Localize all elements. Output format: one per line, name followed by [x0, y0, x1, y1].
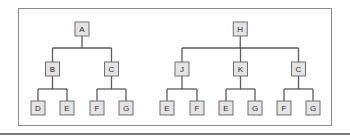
nodes-layer: DEBFGCAEFJEGKFGCH	[31, 22, 320, 115]
node-label: F	[282, 104, 287, 113]
node-label: G	[123, 104, 129, 113]
tree-node: A	[75, 22, 89, 36]
tree-node: G	[119, 101, 133, 115]
node-label: G	[310, 104, 316, 113]
node-label: E	[164, 104, 169, 113]
node-label: C	[296, 65, 302, 74]
node-label: F	[195, 104, 200, 113]
tree-diagram: DEBFGCAEFJEGKFGCH	[0, 0, 350, 136]
node-label: C	[109, 65, 115, 74]
node-label: F	[95, 104, 100, 113]
node-label: J	[180, 65, 184, 74]
node-label: E	[64, 104, 69, 113]
tree-node: H	[233, 22, 247, 36]
tree-node: E	[60, 101, 74, 115]
tree-node: K	[234, 62, 248, 76]
tree-node: E	[160, 101, 174, 115]
node-label: H	[237, 25, 243, 34]
tree-node: G	[306, 101, 320, 115]
tree-node: C	[105, 62, 119, 76]
node-label: G	[252, 104, 258, 113]
tree-node: J	[175, 62, 189, 76]
tree-node: E	[219, 101, 233, 115]
tree-node: F	[190, 101, 204, 115]
tree-node: C	[292, 62, 306, 76]
bottom-divider	[0, 133, 350, 135]
tree-node: B	[46, 62, 60, 76]
node-label: E	[223, 104, 228, 113]
tree-node: G	[248, 101, 262, 115]
node-label: B	[50, 65, 55, 74]
node-label: D	[35, 104, 41, 113]
node-label: K	[238, 65, 244, 74]
tree-node: F	[90, 101, 104, 115]
tree-node: D	[31, 101, 45, 115]
node-label: A	[79, 25, 85, 34]
tree-node: F	[277, 101, 291, 115]
